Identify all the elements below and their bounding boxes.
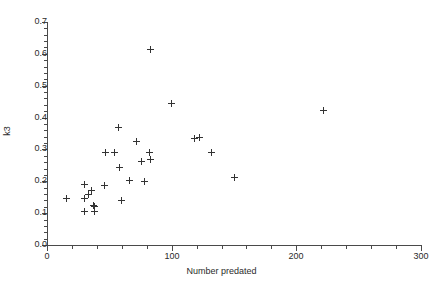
y-tick-label: 0.0: [19, 240, 47, 249]
x-tick-label: 300: [406, 252, 436, 261]
x-tick-label: 200: [281, 252, 311, 261]
x-tick-minor: [147, 246, 148, 249]
y-tick-label: 0.3: [19, 144, 47, 153]
x-tick-minor: [72, 246, 73, 249]
x-axis-title: Number predated: [0, 266, 443, 276]
x-tick-label: 100: [157, 252, 187, 261]
x-tick-label: 0: [32, 252, 62, 261]
y-tick-label: 0.2: [19, 176, 47, 185]
x-tick-minor: [222, 246, 223, 249]
y-tick-label: 0.6: [19, 49, 47, 58]
x-tick-minor: [271, 246, 272, 249]
x-tick-minor: [97, 246, 98, 249]
y-tick-label: 0.1: [19, 208, 47, 217]
x-tick-minor: [321, 246, 322, 249]
y-axis-title: k3: [2, 126, 12, 136]
x-tick-minor: [371, 246, 372, 249]
x-tick-minor: [122, 246, 123, 249]
x-tick-minor: [396, 246, 397, 249]
x-tick-minor: [197, 246, 198, 249]
y-tick-label: 0.5: [19, 81, 47, 90]
x-tick-minor: [246, 246, 247, 249]
y-tick-label: 0.7: [19, 17, 47, 26]
x-tick-minor: [346, 246, 347, 249]
plot-area: [47, 22, 421, 245]
x-axis-line: [47, 245, 422, 246]
y-tick-label: 0.4: [19, 113, 47, 122]
scatter-plot-figure: 0.00.10.20.30.40.50.60.7 0100200300 Numb…: [0, 0, 443, 287]
